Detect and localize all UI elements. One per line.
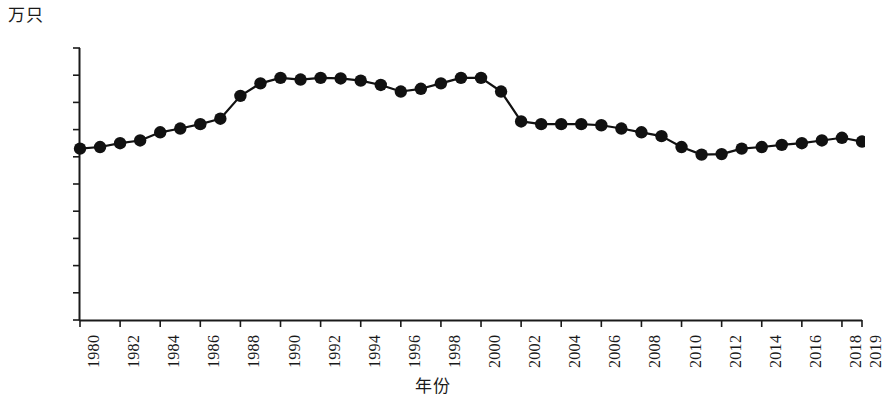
x-axis-tick-label: 2002 (527, 335, 543, 368)
x-axis-tick-label: 2006 (607, 335, 623, 368)
x-axis-tick-label: 2019 (868, 335, 884, 368)
x-axis-title: 年份 (0, 377, 865, 397)
x-axis-tick-label: 2000 (487, 335, 503, 368)
x-axis-tick-label: 1980 (86, 335, 102, 368)
x-axis-tick-label: 1988 (246, 335, 262, 368)
x-axis-tick-label: 2012 (728, 335, 744, 368)
x-axis-tick-label: 1994 (367, 335, 383, 368)
x-axis-tick-label: 2004 (567, 335, 583, 368)
x-axis-tick-label: 1998 (447, 335, 463, 368)
x-axis-tick-label: 2014 (768, 335, 784, 368)
x-axis-tick-label: 1984 (166, 335, 182, 368)
x-axis-tick-label: 1986 (206, 335, 222, 368)
x-axis-tick-label: 1996 (407, 335, 423, 368)
x-axis-tick-label: 2008 (647, 335, 663, 368)
x-axis-tick-label: 1990 (287, 335, 303, 368)
x-axis-tick-label: 1992 (327, 335, 343, 368)
x-axis-tick-label: 2016 (808, 335, 824, 368)
x-axis-tick-label: 2018 (848, 335, 864, 368)
x-axis-tick-label: 1982 (126, 335, 142, 368)
x-axis-tick-label: 2010 (688, 335, 704, 368)
